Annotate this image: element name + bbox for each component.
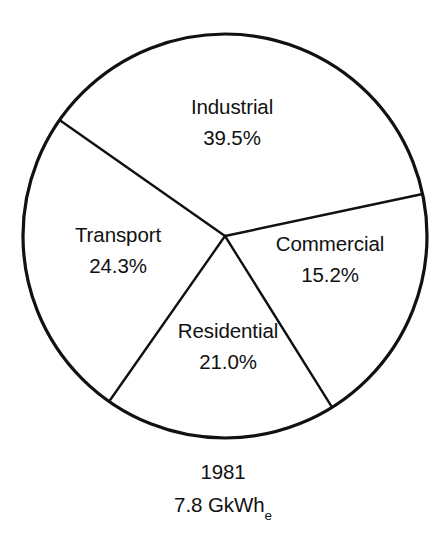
chart-caption: 1981 7.8 GkWhe xyxy=(174,460,272,520)
pie-slice-value-transport: 24.3% xyxy=(75,256,161,277)
caption-year: 1981 xyxy=(174,460,272,484)
pie-slice-value-residential: 21.0% xyxy=(178,352,278,373)
pie-slice-name-transport: Transport xyxy=(75,225,161,246)
pie-chart-figure: Industrial 39.5% Transport 24.3% Commerc… xyxy=(0,0,446,535)
caption-total-subscript: e xyxy=(264,508,271,523)
pie-slice-name-residential: Residential xyxy=(178,321,278,342)
pie-slice-name-commercial: Commercial xyxy=(276,234,384,255)
caption-total: 7.8 GkWhe xyxy=(174,493,272,520)
pie-slice-label-industrial: Industrial 39.5% xyxy=(191,97,273,148)
pie-slice-value-industrial: 39.5% xyxy=(191,128,273,149)
pie-slice-value-commercial: 15.2% xyxy=(276,265,384,286)
pie-slice-label-residential: Residential 21.0% xyxy=(178,321,278,372)
caption-total-value: 7.8 GkWh xyxy=(174,493,264,516)
pie-slice-label-commercial: Commercial 15.2% xyxy=(276,234,384,285)
pie-slice-name-industrial: Industrial xyxy=(191,97,273,118)
pie-slice-label-transport: Transport 24.3% xyxy=(75,225,161,276)
